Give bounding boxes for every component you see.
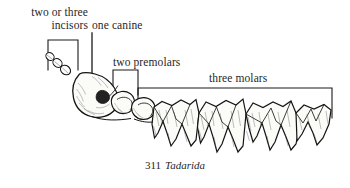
label-premolars: two premolars xyxy=(113,56,180,69)
premolar-1 xyxy=(111,91,134,113)
caption-species-name: Tadarida xyxy=(165,159,205,171)
molar-teeth xyxy=(152,99,331,152)
label-incisors-line1: two or three xyxy=(31,6,88,18)
molar-3 xyxy=(246,101,300,150)
canine-tooth xyxy=(73,73,118,118)
label-incisors: two or three incisors xyxy=(6,6,88,32)
label-incisors-line2: incisors xyxy=(51,19,88,31)
molar-posterior-crest xyxy=(296,105,331,146)
caption-number: 311 xyxy=(145,159,161,171)
molar-1 xyxy=(152,100,199,147)
label-molars: three molars xyxy=(209,72,267,85)
premolar-teeth xyxy=(111,91,155,119)
molar-2 xyxy=(198,99,247,152)
label-canine: one canine xyxy=(92,19,143,32)
figure-caption: 311Tadarida xyxy=(0,159,350,171)
tooth-row-figure: two or three incisors one canine two pre… xyxy=(0,0,350,188)
premolar-2 xyxy=(132,98,156,120)
teeth-drawing xyxy=(44,51,331,152)
